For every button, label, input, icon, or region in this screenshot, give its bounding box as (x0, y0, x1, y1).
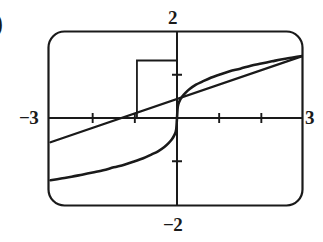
viewing-rectangle (137, 60, 177, 118)
plot-canvas (0, 0, 323, 242)
graph-figure: ) 2 −2 −3 3 (0, 0, 323, 242)
plot-interior (49, 32, 304, 205)
